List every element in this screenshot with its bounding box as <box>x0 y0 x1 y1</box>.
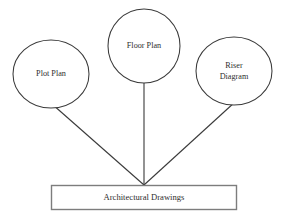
riser-diagram-label-line2: Diagram <box>220 72 249 81</box>
architectural-drawings-diagram: Plot Plan Floor Plan Riser Diagram Archi… <box>0 0 282 220</box>
node-root-box[interactable]: Architectural Drawings <box>52 186 237 210</box>
connector-plot-plan-to-root <box>52 104 144 185</box>
floor-plan-label: Floor Plan <box>127 41 161 50</box>
node-riser-diagram[interactable]: Riser Diagram <box>196 37 272 105</box>
connector-riser-diagram-to-root <box>144 102 235 185</box>
riser-diagram-label-line1: Riser <box>225 61 243 70</box>
architectural-drawings-box-label: Architectural Drawings <box>104 192 186 202</box>
diagram-canvas: Plot Plan Floor Plan Riser Diagram Archi… <box>0 0 282 220</box>
connector-group <box>52 83 235 185</box>
plot-plan-label: Plot Plan <box>36 69 66 78</box>
node-plot-plan[interactable]: Plot Plan <box>13 40 89 108</box>
node-floor-plan[interactable]: Floor Plan <box>108 9 180 83</box>
